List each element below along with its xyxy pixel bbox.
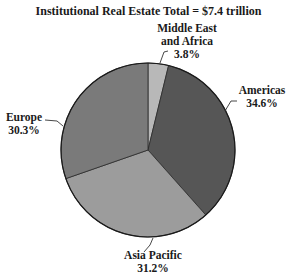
label-asia-pct: 31.2%	[118, 262, 188, 275]
label-asia-pacific: Asia Pacific 31.2%	[118, 249, 188, 275]
pie-slices	[61, 63, 235, 237]
label-mea-line1: Middle East	[152, 22, 222, 35]
label-asia-name: Asia Pacific	[118, 249, 188, 262]
leader-line-europe	[45, 120, 63, 126]
label-europe: Europe 30.3%	[4, 111, 44, 137]
label-europe-name: Europe	[4, 111, 44, 124]
label-mea-pct: 3.8%	[152, 48, 222, 61]
label-americas-name: Americas	[232, 84, 292, 97]
label-americas: Americas 34.6%	[232, 84, 292, 110]
label-americas-pct: 34.6%	[232, 97, 292, 110]
label-middle-east-africa: Middle East and Africa 3.8%	[152, 22, 222, 61]
pie-chart	[0, 0, 297, 277]
label-europe-pct: 30.3%	[4, 124, 44, 137]
label-mea-line2: and Africa	[152, 35, 222, 48]
